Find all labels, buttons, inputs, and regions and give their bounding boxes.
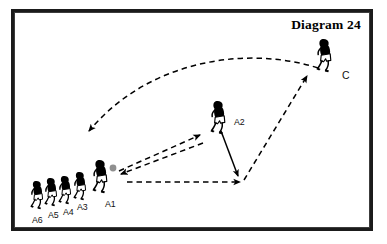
player-figure-a1: [92, 160, 106, 193]
diagram-title: Diagram 24: [291, 17, 361, 33]
player-label-c: C: [342, 70, 350, 81]
arrow-support-point-to-coach: [244, 76, 307, 180]
arrow-a1-pass-to-a2: [119, 135, 200, 171]
player-figure-a5: [44, 178, 56, 206]
player-label-a6: A6: [32, 216, 43, 225]
arrow-a2-movement-down: [221, 131, 238, 176]
player-figure-a2: [210, 101, 224, 134]
diagram-container: Diagram 24 A6A5A4A3A1A2C: [0, 0, 387, 244]
player-figure-c: [316, 39, 330, 72]
ball-group: [110, 165, 117, 172]
player-label-a1: A1: [105, 200, 116, 209]
player-label-a4: A4: [63, 208, 74, 217]
player-label-a3: A3: [77, 203, 88, 212]
arrow-coach-run-arc: [89, 58, 318, 131]
player-figure-group: [30, 39, 330, 209]
player-figure-a6: [30, 181, 42, 209]
player-label-a5: A5: [48, 211, 59, 220]
player-figure-a4: [58, 176, 70, 204]
ball-icon: [110, 165, 117, 172]
player-label-a2: A2: [234, 118, 245, 127]
player-figure-a3: [73, 172, 85, 200]
arrow-group: [89, 58, 318, 182]
diagram-canvas: [0, 0, 387, 244]
arrow-a2-return-pass-to-a1: [121, 143, 203, 174]
